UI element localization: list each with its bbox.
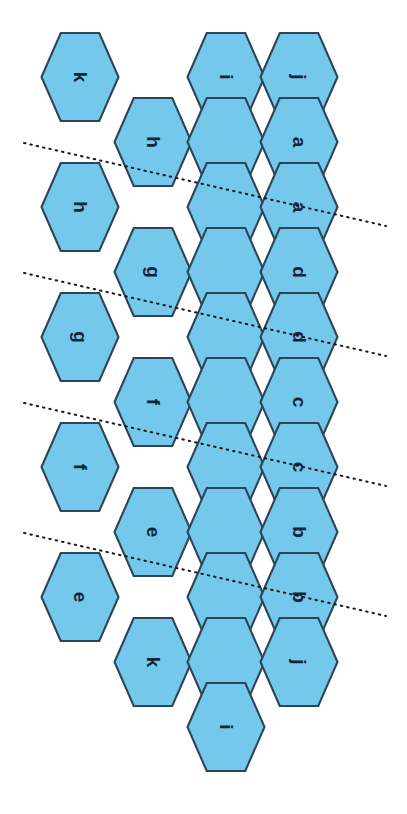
hexagon-label: g (143, 266, 164, 278)
hexagon-cell[interactable]: f (42, 423, 119, 511)
hexagon-label: h (143, 136, 164, 148)
hexagon-label: k (70, 72, 91, 83)
hexagon-label: g (70, 331, 91, 343)
hexagon-label: b (289, 591, 310, 603)
hexagon-net-diagram: kijhahagdgdfcfcebebkji (0, 0, 407, 814)
hexagon-cell[interactable]: j (261, 618, 338, 706)
hexagon-label: k (143, 657, 164, 668)
hexagon-label: e (143, 527, 164, 538)
hexagon-cell[interactable]: g (42, 293, 119, 381)
hexagon-label: a (289, 137, 310, 148)
hexagon-label: e (70, 592, 91, 603)
hexagon-label: j (289, 658, 310, 664)
hexagon-label: b (289, 526, 310, 538)
hexagon-cell[interactable]: k (115, 618, 192, 706)
hexagon-canvas: kijhahagdgdfcfcebebkji (0, 0, 407, 814)
hexagon-label: d (289, 331, 310, 343)
hexagon-label: h (70, 201, 91, 213)
hexagon-cell[interactable]: k (42, 33, 119, 121)
hexagon-cell[interactable]: h (42, 163, 119, 251)
hexagon-cell[interactable]: i (188, 683, 265, 771)
hexagon-label: i (216, 724, 237, 729)
hexagon-cell[interactable]: e (42, 553, 119, 641)
hexagon-layer: kijhahagdgdfcfcebebkji (42, 33, 338, 771)
hexagon-label: f (143, 399, 164, 406)
hexagon-label: f (70, 464, 91, 471)
hexagon-label: c (289, 397, 310, 408)
hexagon-label: j (289, 73, 310, 79)
hexagon-label: i (216, 74, 237, 79)
hexagon-label: d (289, 266, 310, 278)
